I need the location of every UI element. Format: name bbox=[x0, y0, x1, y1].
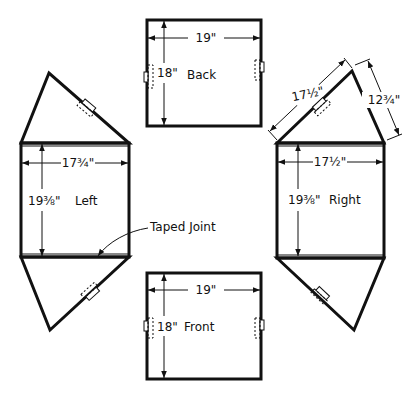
right-panel-name: Right bbox=[329, 193, 361, 207]
right-panel: 17½" 12¾" 17½" 19⅜" Right bbox=[268, 58, 406, 330]
hinge-icon bbox=[144, 65, 153, 88]
hinge-icon bbox=[255, 318, 264, 338]
hinge-icon bbox=[255, 60, 264, 80]
right-width-label: 17½" bbox=[314, 155, 346, 169]
front-height-label: 18" bbox=[157, 320, 178, 334]
right-height-label: 19⅜" bbox=[288, 193, 320, 207]
hinge-icon bbox=[144, 318, 153, 338]
right-triangle-side-b-label: 12¾" bbox=[368, 93, 400, 107]
front-panel: 19" 18" Front bbox=[144, 273, 264, 379]
left-panel-name: Left bbox=[75, 194, 98, 208]
left-height-label: 19⅜" bbox=[28, 194, 60, 208]
box-panel-diagram: 19" 18" Back 17¾" 19⅜" Left bbox=[0, 0, 419, 397]
taped-joint-callout: Taped Joint bbox=[98, 220, 216, 256]
back-height-label: 18" bbox=[157, 66, 178, 80]
back-panel: 19" 18" Back bbox=[144, 20, 264, 126]
back-width-label: 19" bbox=[196, 31, 217, 45]
left-width-label: 17¾" bbox=[62, 156, 94, 170]
front-panel-name: Front bbox=[184, 320, 215, 334]
front-width-label: 19" bbox=[196, 283, 217, 297]
taped-joint-label: Taped Joint bbox=[149, 220, 216, 234]
back-panel-name: Back bbox=[187, 68, 216, 82]
left-panel: 17¾" 19⅜" Left bbox=[21, 73, 129, 330]
hinge-icon bbox=[311, 285, 331, 305]
